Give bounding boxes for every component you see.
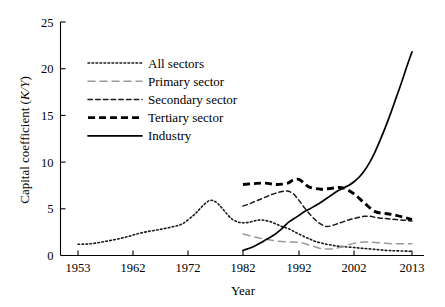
x-axis-tick-label: 1992 <box>287 261 312 275</box>
y-axis-tick-label: 5 <box>47 202 53 216</box>
y-axis-title-italic: K/Y <box>17 79 32 101</box>
legend-label-industry: Industry <box>148 128 192 143</box>
y-axis-title-plain: Capital coefficient ( <box>17 100 32 204</box>
chart-figure: 0510152025 1953196219721982199220022013 … <box>0 0 445 307</box>
x-axis-tick-label: 1962 <box>121 261 146 275</box>
y-axis-tick-label: 20 <box>41 62 54 76</box>
legend-label-all-sectors: All sectors <box>148 56 204 71</box>
x-axis-tick-label: 1972 <box>176 261 201 275</box>
y-axis-tick-label: 10 <box>41 156 54 170</box>
legend-label-secondary-sector: Secondary sector <box>148 92 238 107</box>
x-axis-tick-label: 2013 <box>400 261 425 275</box>
x-axis-title: Year <box>231 283 256 298</box>
y-axis-title: Capital coefficient (K/Y) <box>17 76 32 204</box>
capital-coefficient-line-chart: 0510152025 1953196219721982199220022013 … <box>0 0 445 307</box>
y-axis-tick-label: 25 <box>41 16 54 30</box>
y-axis-title-close: ) <box>17 76 32 80</box>
x-axis-tick-label: 2002 <box>342 261 367 275</box>
y-axis-tick-label: 0 <box>47 249 53 263</box>
y-axis-tick-label: 15 <box>41 109 54 123</box>
legend-label-primary-sector: Primary sector <box>148 74 225 89</box>
x-axis-tick-label: 1953 <box>66 261 91 275</box>
legend-label-tertiary-sector: Tertiary sector <box>148 110 224 125</box>
x-axis-tick-label: 1982 <box>231 261 256 275</box>
